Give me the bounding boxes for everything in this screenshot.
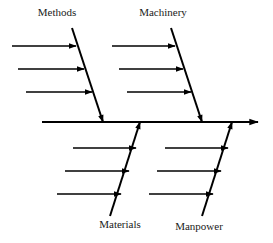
branch-materials: Materials (57, 122, 141, 230)
rib-group-materials (57, 148, 136, 194)
bone-line-methods (72, 28, 103, 122)
bone-label-materials: Materials (99, 218, 141, 230)
bone-label-manpower: Manpower (175, 220, 223, 232)
bone-label-methods: Methods (38, 6, 77, 18)
bone-line-materials (110, 122, 140, 216)
rib-group-manpower (149, 148, 228, 194)
branch-methods: Methods (12, 6, 103, 122)
bone-label-machinery: Machinery (139, 6, 187, 18)
fishbone-diagram: Methods Machinery Materials Manpower (0, 0, 273, 243)
branch-manpower: Manpower (149, 122, 232, 232)
bone-line-manpower (202, 122, 232, 216)
fishbone-canvas: Methods Machinery Materials Manpower (0, 0, 273, 243)
branch-machinery: Machinery (112, 6, 202, 122)
bone-line-machinery (171, 28, 202, 122)
